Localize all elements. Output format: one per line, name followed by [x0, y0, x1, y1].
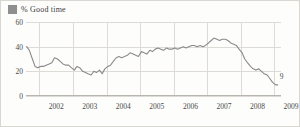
gridline-horizontal: [26, 96, 281, 97]
x-axis-tick-label: 2003: [82, 102, 97, 111]
y-axis-tick-label: 40: [16, 42, 24, 51]
y-axis-tick-label: 0: [19, 92, 23, 101]
x-axis-tick-label: 2005: [149, 102, 164, 111]
legend-color-swatch: [8, 5, 17, 14]
chart-card: % Good time 0204060 20022003200420052006…: [0, 0, 300, 127]
series-line-good-time: [26, 22, 281, 96]
y-axis-tick-label: 60: [16, 18, 24, 27]
chart-legend: % Good time: [8, 5, 66, 14]
series-polyline: [27, 38, 278, 85]
legend-label: % Good time: [21, 5, 66, 14]
x-axis-tick-label: 2007: [216, 102, 231, 111]
x-axis-tick-label: 2004: [116, 102, 131, 111]
x-axis-tick-label: 2009: [284, 102, 299, 111]
x-axis-tick-label: 2008: [250, 102, 265, 111]
x-axis-tick-label: 2006: [183, 102, 198, 111]
x-axis-tick-label: 2002: [49, 102, 64, 111]
y-axis-tick-label: 20: [16, 67, 24, 76]
series-endpoint-value-label: 9: [280, 72, 284, 81]
plot-area: 0204060 20022003200420052006200720082009…: [26, 22, 281, 96]
